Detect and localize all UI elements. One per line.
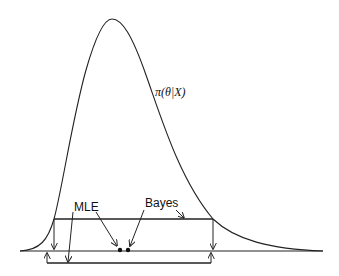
mle-point (118, 248, 122, 252)
mle-label: MLE (74, 200, 99, 214)
bayes-point (126, 248, 130, 252)
bayes-label: Bayes (145, 196, 178, 210)
posterior-label: π(θ|X) (155, 85, 186, 99)
posterior-curve (20, 19, 323, 251)
posterior-diagram: MLE Bayes π(θ|X) (0, 0, 339, 276)
mle-to-point-arrow (96, 212, 117, 246)
mle-to-left-line (54, 213, 72, 219)
bayes-to-cutline-arrow (176, 210, 184, 218)
bayes-to-point-arrow (130, 210, 144, 246)
